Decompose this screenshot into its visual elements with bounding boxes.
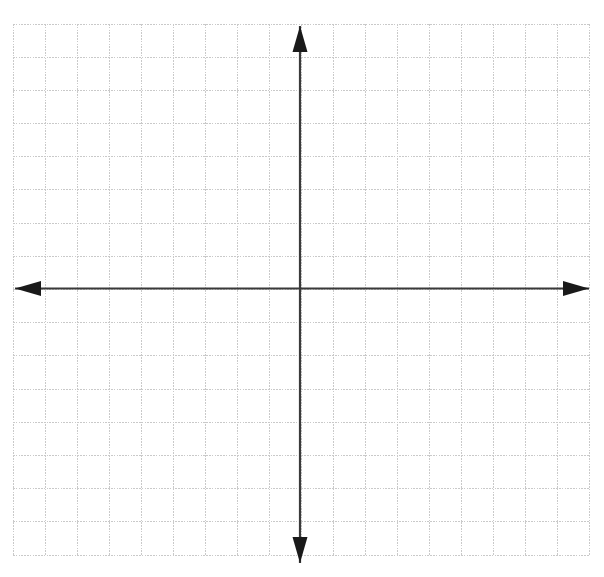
graph-canvas [0, 0, 604, 577]
coordinate-plane [0, 0, 604, 577]
